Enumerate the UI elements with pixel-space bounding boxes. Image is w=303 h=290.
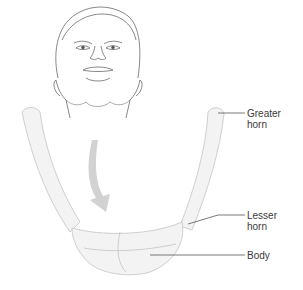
- hyoid-diagram: Greater horn Lesser horn Body: [0, 0, 303, 290]
- direction-arrow: [89, 140, 110, 212]
- label-body: Body: [247, 250, 270, 261]
- label-line: Greater: [247, 108, 281, 119]
- head-illustration: [54, 7, 142, 118]
- label-line: Lesser: [247, 210, 277, 221]
- label-line: Body: [247, 250, 270, 261]
- label-lesser-horn: Lesser horn: [247, 210, 277, 232]
- hyoid-bone: [22, 108, 224, 275]
- label-line: horn: [247, 119, 281, 130]
- label-line: horn: [247, 221, 277, 232]
- label-greater-horn: Greater horn: [247, 108, 281, 130]
